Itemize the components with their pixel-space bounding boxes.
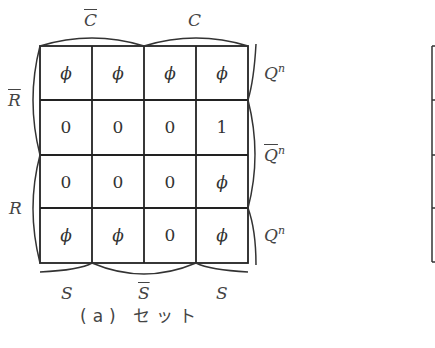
figure-caption: (a) セット (80, 302, 202, 327)
kmap-cell-r2-c1: 0 (92, 155, 144, 209)
kmap-cell-r1-c3: 1 (196, 100, 248, 154)
label-c-bar: C (84, 10, 97, 30)
kmap-cell-r1-c0: 0 (40, 100, 92, 154)
kmap-cell-r2-c2: 0 (144, 155, 196, 209)
kmap-cell-r3-c2: 0 (144, 208, 196, 262)
kmap-cell-r0-c1: ϕ (92, 46, 144, 100)
label-s-bar: S (138, 283, 150, 303)
kmap-cell-r1-c1: 0 (92, 100, 144, 154)
karnaugh-map-diagram: ϕ ϕ ϕ ϕ 0 0 0 1 0 0 0 ϕ ϕ ϕ 0 ϕ C C R R … (0, 0, 435, 348)
kmap-cell-r2-c3: ϕ (196, 155, 248, 209)
kmap-cell-r1-c2: 0 (144, 100, 196, 154)
kmap-cell-r3-c1: ϕ (92, 208, 144, 262)
label-q-n-top: Qn (264, 62, 285, 83)
kmap-cell-r0-c3: ϕ (196, 46, 248, 100)
kmap-cell-r3-c0: ϕ (40, 208, 92, 262)
kmap-cell-r2-c0: 0 (40, 155, 92, 209)
label-r: R (9, 198, 22, 218)
label-c: C (188, 10, 201, 30)
kmap-cell-r3-c3: ϕ (196, 208, 248, 262)
label-q-bar-n: Qn (264, 144, 285, 165)
label-s-left: S (61, 283, 73, 303)
kmap-cell-r0-c0: ϕ (40, 46, 92, 100)
label-s-right: S (216, 283, 228, 303)
label-q-n-bottom: Qn (264, 224, 285, 245)
kmap-cell-r0-c2: ϕ (144, 46, 196, 100)
label-r-bar: R (8, 90, 21, 110)
